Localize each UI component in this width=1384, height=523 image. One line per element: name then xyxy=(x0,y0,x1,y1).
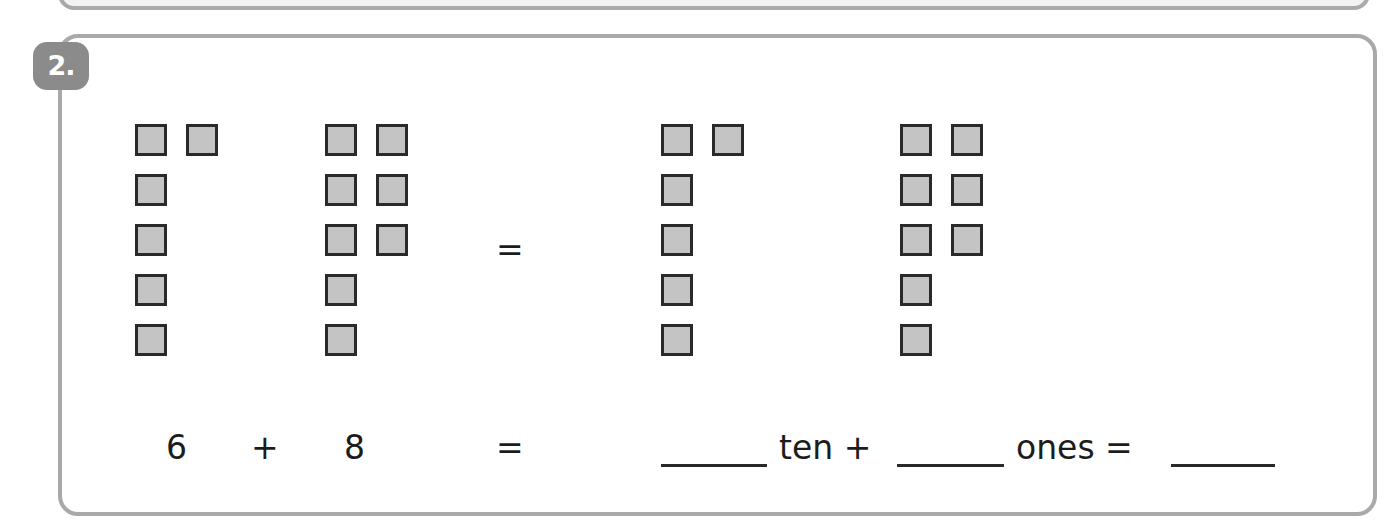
addend-two: 8 xyxy=(344,428,365,468)
counter-square xyxy=(900,174,932,206)
ten-label: ten + xyxy=(779,428,871,468)
counter-square xyxy=(325,224,357,256)
counter-square xyxy=(135,274,167,306)
counter-square xyxy=(661,224,693,256)
previous-problem-box xyxy=(58,0,1370,10)
counter-square xyxy=(135,324,167,356)
counter-square xyxy=(376,224,408,256)
counter-square xyxy=(661,174,693,206)
counter-square xyxy=(376,124,408,156)
counter-square xyxy=(325,174,357,206)
counter-square xyxy=(325,274,357,306)
counter-square xyxy=(325,124,357,156)
counter-square xyxy=(900,224,932,256)
counter-square xyxy=(186,124,218,156)
counter-square xyxy=(900,324,932,356)
counter-square xyxy=(951,224,983,256)
counter-square xyxy=(376,174,408,206)
counter-square xyxy=(900,274,932,306)
counter-square xyxy=(661,274,693,306)
counter-square xyxy=(661,324,693,356)
equals-sign: = xyxy=(496,428,524,468)
counter-square xyxy=(951,124,983,156)
diagram-equals-sign: = xyxy=(496,230,524,270)
ones-answer-blank[interactable] xyxy=(897,464,1004,467)
counter-square xyxy=(135,124,167,156)
tens-answer-blank[interactable] xyxy=(661,464,767,467)
ones-label: ones = xyxy=(1016,428,1133,468)
counter-square xyxy=(661,124,693,156)
problem-number-badge: 2. xyxy=(33,42,89,90)
addend-one: 6 xyxy=(166,428,187,468)
counter-square xyxy=(900,124,932,156)
plus-sign: + xyxy=(251,428,279,468)
counter-square xyxy=(135,224,167,256)
total-answer-blank[interactable] xyxy=(1171,464,1275,467)
counter-square xyxy=(135,174,167,206)
counter-square xyxy=(951,174,983,206)
counter-square xyxy=(325,324,357,356)
counter-square xyxy=(712,124,744,156)
